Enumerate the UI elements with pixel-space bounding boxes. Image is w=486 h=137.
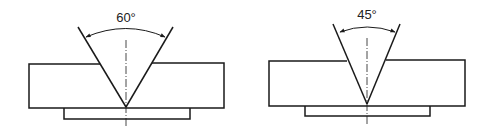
groove-45-diagram: 45° bbox=[269, 7, 465, 126]
weld-groove-diagrams: 60° 45° bbox=[0, 0, 486, 137]
plate-outline bbox=[29, 63, 224, 108]
backing-bar bbox=[64, 108, 190, 119]
angle-label: 60° bbox=[116, 10, 136, 25]
angle-arc bbox=[86, 29, 165, 38]
groove-right-face bbox=[367, 24, 400, 104]
groove-right-face bbox=[126, 27, 173, 107]
angle-label: 45° bbox=[357, 7, 377, 22]
angle-arc bbox=[340, 27, 395, 32]
groove-left-face bbox=[78, 27, 126, 107]
groove-left-face bbox=[333, 24, 367, 104]
backing-bar bbox=[305, 106, 430, 116]
groove-60-diagram: 60° bbox=[29, 10, 224, 128]
